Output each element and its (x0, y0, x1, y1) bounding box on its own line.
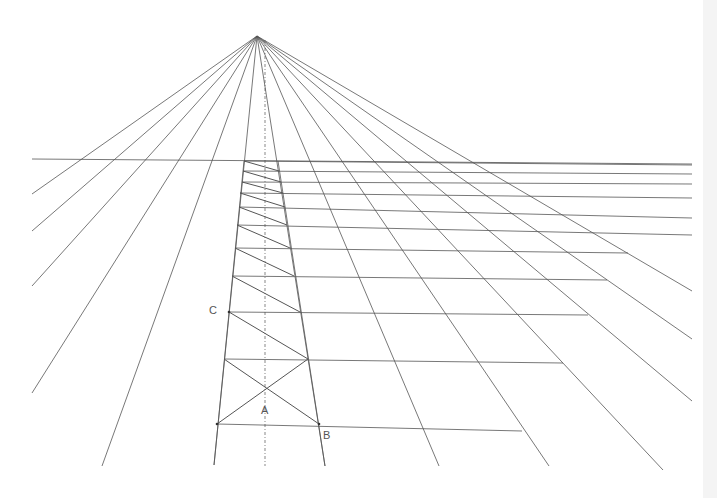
perspective-ray (257, 36, 692, 339)
diagonal-line (229, 312, 308, 359)
grid-row-line (240, 193, 692, 198)
diagonal-line (244, 161, 279, 171)
grid-row-line (237, 225, 692, 235)
grid-row-line (224, 359, 563, 363)
perspective-ray (32, 36, 257, 231)
diagonal-line (242, 182, 283, 193)
diagonal-line (232, 276, 300, 312)
point-marker (228, 311, 231, 314)
label-c: C (209, 304, 217, 316)
grid-row-line (217, 424, 522, 431)
label-a: A (261, 404, 268, 416)
grid-row-line (235, 248, 628, 253)
horizon-line (32, 159, 692, 164)
perspective-ray (32, 36, 257, 194)
grid-row-line (239, 207, 692, 218)
diagonal-line (239, 207, 287, 225)
diagonal-line (243, 171, 281, 182)
perspective-ray (257, 36, 692, 401)
perspective-ray (32, 36, 257, 393)
perspective-ray (32, 36, 257, 286)
diagonal-line (237, 225, 290, 248)
grid-row-line (243, 171, 692, 174)
label-b: B (323, 429, 330, 441)
grid-row-line (229, 312, 588, 315)
grid-row-line (232, 276, 607, 280)
perspective-ray (102, 36, 257, 466)
diagonal-line (240, 193, 285, 207)
point-marker (216, 423, 219, 426)
perspective-ray (257, 36, 549, 466)
point-marker (318, 423, 321, 426)
perspective-diagram (0, 0, 717, 498)
perspective-ray (257, 36, 439, 466)
diagonal-line (235, 248, 294, 276)
diagonal-line (224, 359, 319, 424)
